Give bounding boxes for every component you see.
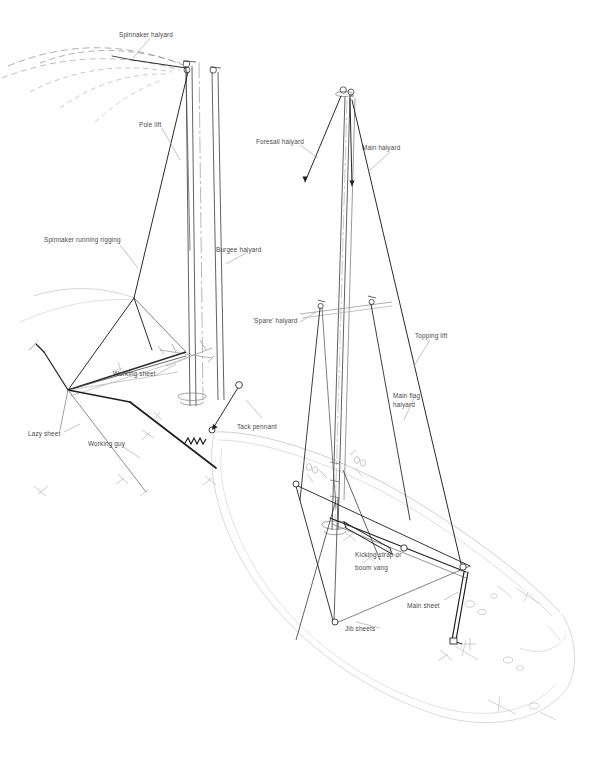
- label-topping-lift: Topping lift: [415, 332, 447, 341]
- label-lazy-sheet: Lazy sheet: [28, 430, 60, 439]
- label-spare-halyard: 'Spare' halyard: [253, 317, 297, 326]
- spinnaker-sail-arcs: [2, 48, 183, 322]
- rope-whipping: [185, 438, 206, 444]
- tack-shackle-icon: [236, 382, 243, 389]
- halyard-arrowheads: [212, 177, 355, 430]
- foremast-group: [158, 61, 224, 406]
- block-icon: [293, 481, 299, 487]
- label-pole-lift: Pole lift: [139, 121, 161, 130]
- rigging-diagram: [0, 0, 599, 775]
- block-icon: [460, 564, 466, 570]
- traveller-car-icon: [450, 638, 457, 644]
- label-spinnaker-running-rigging: Spinnaker running rigging: [44, 236, 121, 245]
- deck-fittings: [455, 586, 556, 720]
- diagram-canvas: Spinnaker halyard Pole lift Foresail hal…: [0, 0, 599, 775]
- running-rigging-lines: [36, 56, 470, 644]
- label-foresail-halyard: Foresail halyard: [256, 138, 304, 147]
- label-kicking-strap-line1: Kicking strap or: [355, 551, 401, 560]
- label-main-sheet: Main sheet: [407, 602, 440, 611]
- label-main-flag-halyard-line2: halyard: [393, 401, 415, 410]
- label-spinnaker-halyard: Spinnaker halyard: [119, 31, 173, 40]
- label-jib-sheets: Jib sheets: [345, 625, 375, 634]
- block-icon: [401, 545, 407, 551]
- block-icon: [332, 619, 338, 625]
- hull-outline: [212, 432, 575, 723]
- label-working-sheet: Working sheet: [113, 370, 156, 379]
- label-leader-lines: [64, 38, 458, 628]
- label-working-guy: Working guy: [88, 440, 125, 449]
- label-tack-pennant: Tack pennant: [237, 423, 277, 432]
- label-burgee-halyard: Burgee halyard: [216, 246, 261, 255]
- label-kicking-strap-line2: boom vang: [355, 564, 388, 573]
- label-main-flag-halyard-line1: Main flag: [393, 392, 420, 401]
- label-main-halyard: Main halyard: [362, 144, 400, 153]
